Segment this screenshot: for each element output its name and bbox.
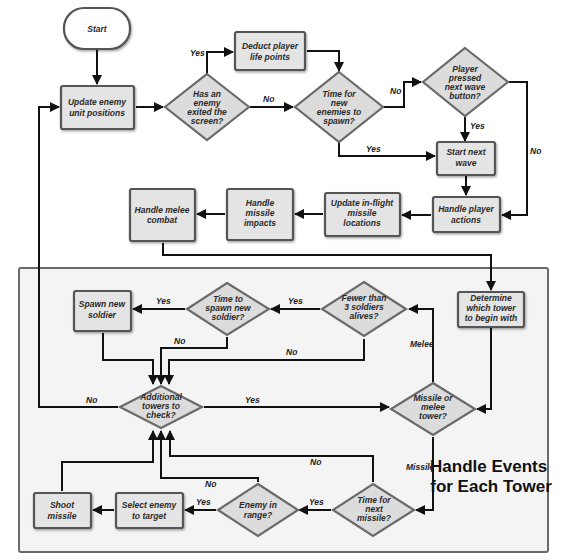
label-missile: Missile [406, 462, 435, 472]
label-next-missile-no: No [310, 457, 321, 467]
flowchart: Handle Events for Each Tower Yes No No Y… [0, 0, 564, 560]
update-missiles-node: Update in-flightmissilelocations [325, 193, 400, 236]
enemy-exited-decision: Has anenemyexited thescreen? [165, 74, 249, 140]
label-fewer-no: No [286, 347, 297, 357]
svg-text:Update enemyunit positions: Update enemyunit positions [68, 97, 127, 118]
edge-exited-yes [207, 52, 233, 74]
select-enemy-node: Select enemyto target [116, 493, 183, 528]
label-wave-yes: Yes [470, 121, 485, 131]
start-next-wave-node: Start nextwave [437, 142, 495, 175]
label-in-range-yes: Yes [196, 497, 211, 507]
svg-text:Start: Start [87, 24, 108, 34]
next-wave-pressed-decision: Playerpressednext wavebutton? [423, 48, 508, 116]
label-fewer-yes: Yes [288, 296, 303, 306]
label-next-missile-yes: Yes [309, 497, 324, 507]
svg-text:Time fornewenemies tospawn?: Time fornewenemies tospawn? [317, 89, 361, 126]
label-spawn-yes: Yes [366, 144, 381, 154]
label-exited-yes: Yes [190, 48, 205, 58]
spawn-enemies-decision: Time fornewenemies tospawn? [295, 72, 383, 142]
start-node: Start [64, 8, 130, 49]
svg-text:Enemy inrange?: Enemy inrange? [239, 500, 277, 520]
shoot-missile-node: Shootmissile [34, 493, 91, 528]
edge-deduct-to-spawn [307, 51, 339, 71]
label-additional-yes: Yes [245, 395, 260, 405]
svg-text:Shootmissile: Shootmissile [48, 500, 77, 521]
label-wave-no: No [530, 146, 541, 156]
label-exited-no: No [263, 94, 274, 104]
determine-tower-node: Determinewhich towerto begin with [458, 292, 524, 327]
edge-wave-no [502, 82, 527, 215]
deduct-life-node: Deduct playerlife points [235, 32, 305, 70]
spawn-soldier-node: Spawn newsoldier [74, 291, 131, 331]
label-additional-no: No [86, 395, 97, 405]
label-time-soldier-no: No [174, 336, 185, 346]
edge-spawn-yes [339, 142, 435, 156]
handle-missile-impacts-node: Handlemissileimpacts [227, 189, 293, 240]
label-melee: Melee [410, 339, 434, 349]
svg-text:Handlemissileimpacts: Handlemissileimpacts [244, 198, 276, 228]
label-in-range-no: No [205, 479, 216, 489]
handle-player-actions-node: Handle playeractions [433, 197, 500, 232]
svg-text:Determinewhich towerto begin w: Determinewhich towerto begin with [465, 293, 517, 323]
region-title: Handle Events for Each Tower [430, 457, 552, 496]
update-enemy-positions-node: Update enemyunit positions [61, 86, 134, 129]
label-time-soldier-yes: Yes [156, 296, 171, 306]
label-spawn-no: No [390, 86, 401, 96]
handle-melee-combat-node: Handle meleecombat [130, 189, 195, 241]
